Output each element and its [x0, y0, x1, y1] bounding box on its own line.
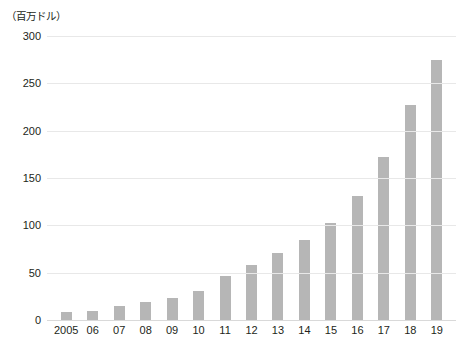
x-tick-slot: 11 [212, 323, 238, 343]
plot-area [47, 36, 456, 320]
x-tick-slot: 12 [238, 323, 264, 343]
x-tick-slot: 07 [106, 323, 132, 343]
gridline [47, 225, 456, 226]
x-tick-slot: 09 [159, 323, 185, 343]
x-axis-tick-label: 12 [245, 323, 257, 343]
y-axis-tick-label: 250 [7, 78, 41, 89]
x-axis-tick-label: 13 [272, 323, 284, 343]
x-axis-tick-label: 06 [87, 323, 99, 343]
bar [193, 291, 204, 320]
bar [87, 311, 98, 320]
x-axis-tick-label: 18 [404, 323, 416, 343]
y-axis-tick-label: 100 [7, 220, 41, 231]
x-tick-slot: 18 [397, 323, 423, 343]
x-axis-tick-label: 08 [140, 323, 152, 343]
x-axis: 20050607080910111213141516171819 [47, 323, 456, 343]
x-axis-tick-label: 19 [431, 323, 443, 343]
y-axis-tick-label: 200 [7, 125, 41, 136]
bar-chart: （百万ドル） 20050607080910111213141516171819 … [0, 0, 462, 356]
gridline [47, 83, 456, 84]
x-tick-slot: 10 [185, 323, 211, 343]
bar [220, 276, 231, 320]
bar [114, 306, 125, 320]
x-tick-slot: 06 [79, 323, 105, 343]
x-axis-tick-label: 16 [351, 323, 363, 343]
y-axis-unit-label: （百万ドル） [6, 10, 66, 22]
x-axis-tick-label: 15 [325, 323, 337, 343]
gridline [47, 36, 456, 37]
gridline [47, 273, 456, 274]
bar [140, 302, 151, 320]
bar [167, 298, 178, 320]
y-axis-tick-label: 0 [7, 315, 41, 326]
bar [405, 105, 416, 320]
bar [299, 240, 310, 320]
x-axis-tick-label: 14 [298, 323, 310, 343]
x-axis-tick-label: 2005 [54, 323, 78, 343]
x-tick-slot: 17 [371, 323, 397, 343]
bar [325, 223, 336, 321]
x-tick-slot: 15 [318, 323, 344, 343]
x-tick-slot: 14 [291, 323, 317, 343]
y-axis-tick-label: 150 [7, 173, 41, 184]
gridline [47, 131, 456, 132]
x-tick-slot: 08 [132, 323, 158, 343]
bar [61, 312, 72, 320]
x-axis-tick-label: 09 [166, 323, 178, 343]
x-tick-slot: 2005 [53, 323, 79, 343]
gridline [47, 178, 456, 179]
x-tick-slot: 13 [265, 323, 291, 343]
x-axis-tick-label: 10 [192, 323, 204, 343]
x-axis-tick-label: 11 [219, 323, 230, 343]
x-axis-tick-label: 07 [113, 323, 125, 343]
x-tick-slot: 19 [424, 323, 450, 343]
bar [272, 253, 283, 320]
bar [378, 157, 389, 320]
bar [431, 60, 442, 320]
x-axis-tick-label: 17 [378, 323, 390, 343]
bar [352, 196, 363, 320]
x-tick-slot: 16 [344, 323, 370, 343]
gridline [47, 320, 456, 321]
y-axis-tick-label: 50 [7, 267, 41, 278]
y-axis-tick-label: 300 [7, 31, 41, 42]
